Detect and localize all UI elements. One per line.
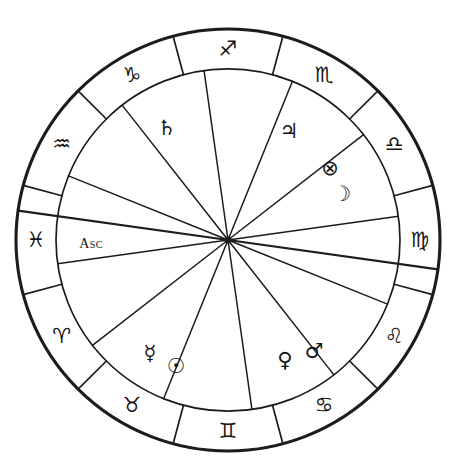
sign-divider-4 [394,284,433,294]
sign-divider-0 [173,36,183,74]
sign-divider-10 [23,185,62,195]
ascendant-label: Asc [79,236,103,251]
sign-divider-11 [78,91,106,119]
sign-glyph-taurus: ♉ [123,393,142,417]
sign-divider-9 [23,284,62,294]
house-cusp-spoke-11 [69,176,228,240]
sign-glyph-virgo: ♍ [411,228,430,252]
sign-glyph-scorpio: ♏ [315,63,334,87]
sign-glyph-capricorn: ♑ [123,63,142,87]
planet-glyph-mercury: ☿ [144,341,157,365]
sign-divider-5 [350,361,378,389]
sign-glyph-aquarius: ♒ [52,132,71,156]
ascendant-axis-line [18,211,228,240]
sign-glyph-libra: ♎ [385,132,404,156]
planet-glyph-moon: ☽ [333,182,352,206]
sign-glyph-cancer: ♋ [315,393,334,417]
sign-divider-2 [350,91,378,119]
sign-glyph-aries: ♈ [52,324,71,348]
planet-glyph-venus: ♀ [277,348,292,372]
planet-glyph-sun: ☉ [167,354,186,378]
descendant-axis-line [228,240,438,269]
sign-glyph-pisces: ♓ [27,228,46,252]
wheel-center-hub [225,237,232,244]
sign-glyph-sagittarius: ♐ [219,37,238,61]
sign-divider-1 [273,36,283,74]
sign-divider-3 [394,185,433,195]
planet-glyph-mars: ♂ [305,339,324,363]
sign-glyph-leo: ♌ [385,324,404,348]
planet-glyph-jupiter: ♃ [280,119,299,143]
house-cusp-spoke-5 [228,240,387,304]
planet-glyph-part-of-fortune: ⊗ [321,156,339,180]
sign-glyph-gemini: ♊ [219,419,238,443]
sign-divider-7 [173,405,183,443]
center-hub-dot [225,237,232,244]
sign-divider-8 [78,361,106,389]
chart-wheel-svg: ♐♑♒♓♈♉♊♋♌♍♎♏ ♄♃⊗☽☿☉♀♂ Asc [0,0,452,474]
planet-glyph-saturn: ♄ [158,116,177,140]
house-cusp-spoke-2 [228,81,292,240]
chart-text-label-group: Asc [79,236,103,251]
sign-divider-6 [273,405,283,443]
astrology-chart-wheel: ♐♑♒♓♈♉♊♋♌♍♎♏ ♄♃⊗☽☿☉♀♂ Asc [0,0,452,474]
